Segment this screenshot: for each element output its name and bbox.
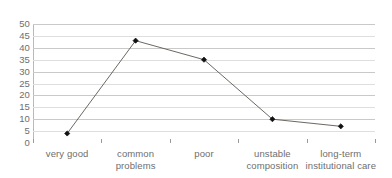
line-chart: 50454035302520151050 very goodcommon pro… — [0, 0, 392, 178]
x-axis-category-label: long-term institutional care — [290, 148, 392, 171]
data-point-marker — [338, 124, 343, 129]
series-line — [67, 41, 341, 134]
